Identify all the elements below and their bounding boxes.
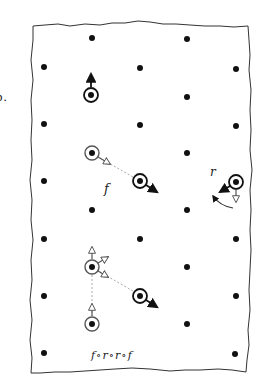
lattice-dot: [184, 207, 190, 213]
lattice-dot: [184, 321, 190, 327]
marked-point-bottom-target: [133, 289, 157, 307]
lattice-dot: [41, 236, 47, 242]
lattice-dot: [184, 36, 190, 42]
lattice-dot: [233, 66, 239, 72]
dot-icon: [89, 321, 95, 327]
lattice-dot: [41, 178, 47, 184]
arrow-down-right-icon: [146, 185, 157, 192]
marked-point-r: [213, 175, 243, 208]
lattice-dot: [233, 236, 239, 242]
dot-icon: [233, 179, 239, 185]
marked-point-top: [84, 74, 98, 102]
lattice-dot: [137, 122, 143, 128]
lattice-dot: [89, 207, 95, 213]
arrow-down-right-hollow-icon: [98, 271, 108, 277]
rotation-arc-icon: [213, 196, 233, 208]
lattice-dot: [41, 350, 47, 356]
panel-label: b.: [0, 89, 8, 105]
lattice-dot: [184, 150, 190, 156]
arrow-up-right-hollow-icon: [98, 257, 108, 263]
dot-icon: [137, 293, 143, 299]
connectors: [92, 158, 133, 316]
lattice-dot: [184, 94, 190, 100]
dot-icon: [89, 150, 95, 156]
lattice-dots: [41, 35, 239, 357]
lattice-dot: [137, 65, 143, 71]
marked-point-f-source: [85, 146, 110, 164]
arrow-down-right-icon: [146, 300, 157, 307]
composition-label: f∘r∘r∘f: [90, 349, 134, 362]
paper-border: [30, 21, 252, 373]
arrow-down-left-icon: [220, 186, 230, 192]
f-label: f: [103, 181, 111, 196]
dot-icon: [137, 178, 143, 184]
lattice-dot: [41, 293, 47, 299]
lattice-dot: [184, 264, 190, 270]
dot-icon: [89, 264, 95, 270]
r-label: r: [210, 165, 217, 179]
lattice-dot: [233, 293, 239, 299]
lattice-dot: [137, 236, 143, 242]
lattice-dot: [89, 35, 95, 41]
lattice-dot: [41, 64, 47, 70]
lattice-symmetry-figure: b.: [0, 0, 263, 389]
lattice-dot: [41, 121, 47, 127]
marked-point-bottom: [85, 304, 99, 331]
lattice-dot: [233, 123, 239, 129]
dot-icon: [88, 92, 94, 98]
lattice-dot: [232, 351, 238, 357]
marked-point-f-target: [133, 174, 157, 192]
marked-point-multi: [85, 247, 108, 277]
figure-canvas: f r f∘r∘r∘f: [0, 0, 263, 389]
arrow-down-right-hollow-icon: [98, 157, 110, 164]
